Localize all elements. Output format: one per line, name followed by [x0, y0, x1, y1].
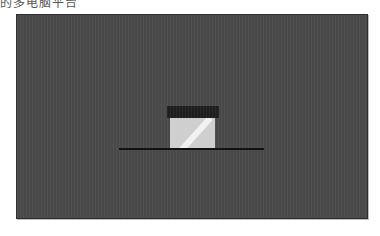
scene-panel: [16, 14, 368, 219]
caption-text: 的多电脑平台: [0, 0, 78, 10]
box-body: [170, 118, 215, 148]
box-lid: [167, 106, 219, 118]
highlight-stripe: [177, 118, 212, 148]
ground-line: [119, 148, 264, 150]
